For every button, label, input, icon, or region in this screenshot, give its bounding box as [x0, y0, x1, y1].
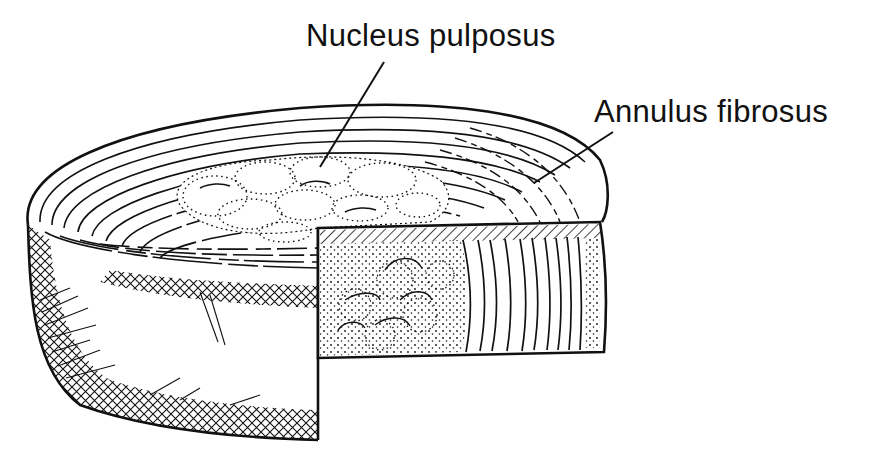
cut-cross-section: [318, 222, 606, 358]
label-annulus-fibrosus: Annulus fibrosus: [594, 94, 828, 130]
disc-illustration: [0, 0, 884, 459]
outer-side-wall: [28, 225, 318, 440]
disc-diagram: Nucleus pulposus Annulus fibrosus: [0, 0, 884, 459]
label-nucleus-pulposus: Nucleus pulposus: [306, 18, 556, 54]
